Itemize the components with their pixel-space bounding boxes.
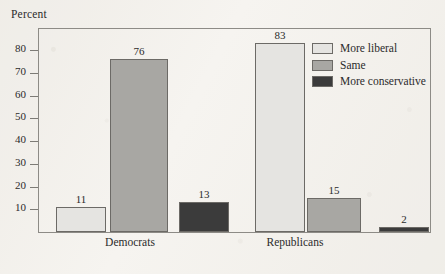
y-axis-tick-mark [30,164,38,165]
bar: 15 [307,198,361,232]
y-axis-tick-mark [30,187,38,188]
y-axis-tick-mark [30,209,38,210]
y-axis-tick-label: 50 [15,110,26,122]
legend-item-same: Same [312,60,426,72]
y-axis-title: Percent [11,8,47,20]
legend: More liberalSameMore conservative [312,43,426,88]
y-axis-tick-label: 60 [15,88,26,100]
bar-value-label: 15 [329,184,340,196]
y-axis-tick-label: 10 [15,201,26,213]
bar-value-label: 13 [199,188,210,200]
y-axis-tick-label: 40 [15,133,26,145]
bar-value-label: 83 [275,29,286,41]
x-axis-category-label: Democrats [105,236,155,248]
y-axis-tick-mark [30,118,38,119]
y-axis-tick-mark [30,50,38,51]
y-axis-tick-mark [30,73,38,74]
bar: 2 [379,227,429,232]
bar: 76 [110,59,168,232]
bar-value-label: 2 [401,213,407,225]
y-axis-tick-mark [30,96,38,97]
legend-label-more-liberal: More liberal [340,43,397,55]
legend-label-same: Same [340,60,366,72]
y-axis-tick-label: 20 [15,179,26,191]
legend-swatch-same [312,60,333,71]
legend-item-more-conservative: More conservative [312,76,426,88]
x-axis-category-label: Republicans [267,236,324,248]
legend-swatch-more-liberal [312,43,333,54]
y-axis-tick-label: 30 [15,156,26,168]
legend-swatch-more-conservative [312,76,333,87]
y-axis-tick-label: 80 [15,42,26,54]
bar: 13 [179,202,229,232]
bar-value-label: 76 [134,45,145,57]
bar: 11 [56,207,106,232]
y-axis-tick-label: 70 [15,65,26,77]
legend-label-more-conservative: More conservative [340,76,426,88]
y-axis-tick-mark [30,141,38,142]
bar-chart: Percent 1020304050607080 11761383152 Dem… [0,0,445,274]
legend-item-more-liberal: More liberal [312,43,426,55]
bar: 83 [255,43,305,232]
bar-value-label: 11 [76,193,87,205]
